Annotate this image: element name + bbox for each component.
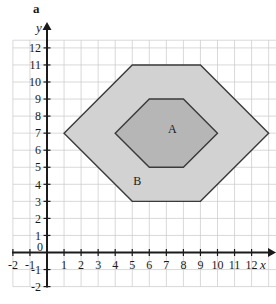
x-tick-label: 12: [246, 258, 258, 272]
origin-label: 0: [37, 240, 43, 254]
y-tick-label: 11: [29, 58, 41, 72]
y-tick-label: 7: [35, 126, 41, 140]
x-axis-name: x: [259, 257, 266, 272]
y-tick-label: 4: [35, 178, 41, 192]
x-tick-label: 9: [197, 258, 203, 272]
plotted-shapes: [64, 65, 269, 201]
y-tick-label: 6: [35, 143, 41, 157]
x-tick-label: 3: [95, 258, 101, 272]
y-tick-label: -2: [31, 280, 41, 294]
coordinate-grid-graph: -2-1123456789101112-2-11234567891011120 …: [0, 0, 276, 304]
x-tick-label: 5: [129, 258, 135, 272]
y-tick-label: 8: [35, 109, 41, 123]
y-axis-arrowhead: [43, 22, 52, 30]
x-tick-label: 4: [112, 258, 118, 272]
x-tick-label: -2: [8, 258, 18, 272]
x-axis-arrowhead: [268, 248, 276, 257]
y-tick-label: 9: [35, 92, 41, 106]
y-tick-label: 5: [35, 160, 41, 174]
shape-label-b: B: [133, 174, 141, 188]
y-tick-label: 10: [29, 75, 41, 89]
x-tick-label: 7: [163, 258, 169, 272]
y-tick-label: -1: [31, 263, 41, 277]
y-axis-name: y: [34, 20, 42, 35]
y-tick-label: 3: [35, 195, 41, 209]
x-tick-label: 8: [180, 258, 186, 272]
y-tick-label: 2: [35, 212, 41, 226]
x-tick-label: 10: [212, 258, 224, 272]
x-tick-label: 1: [61, 258, 67, 272]
x-tick-label: 2: [78, 258, 84, 272]
y-tick-label: 12: [29, 41, 41, 55]
figure-container: a -2-1123456789101112-2-1123456789101112…: [0, 0, 276, 304]
shape-label-a: A: [168, 122, 177, 136]
x-tick-label: 11: [229, 258, 241, 272]
x-tick-label: 6: [146, 258, 152, 272]
